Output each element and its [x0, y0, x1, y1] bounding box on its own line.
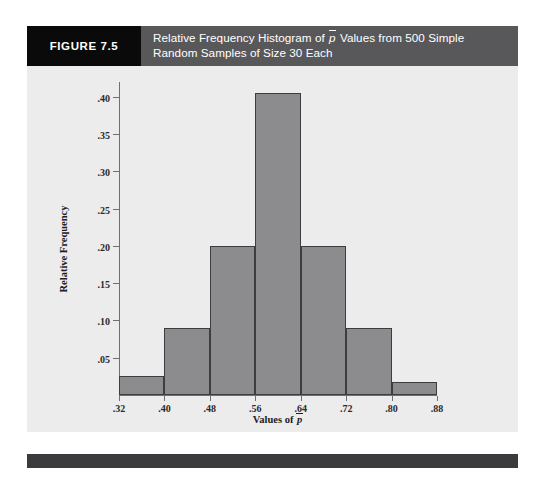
y-axis-line	[119, 82, 120, 396]
y-axis-tick	[113, 358, 119, 359]
figure-footer-bar	[27, 454, 518, 468]
y-axis-tick-label: .15	[98, 279, 111, 290]
x-axis-tick	[437, 396, 438, 401]
x-axis-label-prefix: Values of	[253, 414, 296, 425]
x-axis-tick	[210, 396, 211, 401]
x-axis-tick	[301, 396, 302, 401]
y-axis-tick-label: .40	[98, 92, 111, 103]
histogram-bar	[255, 93, 300, 395]
figure-title-line1-prefix: Relative Frequency Histogram of	[153, 31, 328, 44]
histogram-bar	[301, 246, 346, 395]
figure-number-tag: FIGURE 7.5	[27, 26, 141, 66]
x-axis-tick	[392, 396, 393, 401]
y-axis-tick	[113, 171, 119, 172]
y-axis-tick	[113, 320, 119, 321]
x-axis-tick	[119, 396, 120, 401]
x-axis-tick-label: .72	[340, 403, 353, 414]
x-axis-tick-label: .32	[113, 403, 126, 414]
y-axis-tick	[113, 246, 119, 247]
histogram-chart: .05.10.15.20.25.30.35.40.32.40.48.56.64.…	[119, 82, 437, 396]
histogram-bar	[119, 376, 164, 395]
x-axis-tick-label: .88	[431, 403, 444, 414]
y-axis-tick	[113, 209, 119, 210]
x-axis-tick	[255, 396, 256, 401]
y-axis-tick-label: .35	[98, 130, 111, 141]
y-axis-tick-label: .30	[98, 167, 111, 178]
y-axis-label: Relative Frequency	[58, 206, 69, 293]
y-axis-tick-label: .25	[98, 204, 111, 215]
p-bar-symbol-xaxis: p	[296, 414, 303, 425]
y-axis-tick-label: .20	[98, 241, 111, 252]
y-axis-tick	[113, 134, 119, 135]
figure-title-line2: Random Samples of Size 30 Each	[153, 46, 333, 59]
histogram-bar	[392, 382, 437, 395]
p-bar-symbol-title: p	[328, 31, 337, 46]
plot-panel: Relative Frequency .05.10.15.20.25.30.35…	[27, 66, 518, 432]
x-axis-tick	[346, 396, 347, 401]
x-axis-tick-label: .80	[385, 403, 398, 414]
x-axis-line	[119, 395, 437, 396]
figure-title: Relative Frequency Histogram of p Values…	[141, 26, 518, 66]
histogram-bar	[164, 328, 209, 395]
y-axis-tick-label: .10	[98, 316, 111, 327]
y-axis-tick	[113, 283, 119, 284]
figure-title-line1-suffix: Values from 500 Simple	[337, 31, 465, 44]
x-axis-label: Values of p	[119, 414, 437, 425]
figure-container: FIGURE 7.5 Relative Frequency Histogram …	[27, 26, 518, 468]
histogram-bar	[346, 328, 391, 395]
y-axis-tick	[113, 97, 119, 98]
y-axis-tick-label: .05	[98, 353, 111, 364]
x-axis-tick	[164, 396, 165, 401]
figure-header: FIGURE 7.5 Relative Frequency Histogram …	[27, 26, 518, 66]
x-axis-tick-label: .48	[204, 403, 217, 414]
histogram-bar	[210, 246, 255, 395]
x-axis-tick-label: .40	[158, 403, 171, 414]
x-axis-tick-label: .56	[249, 403, 262, 414]
